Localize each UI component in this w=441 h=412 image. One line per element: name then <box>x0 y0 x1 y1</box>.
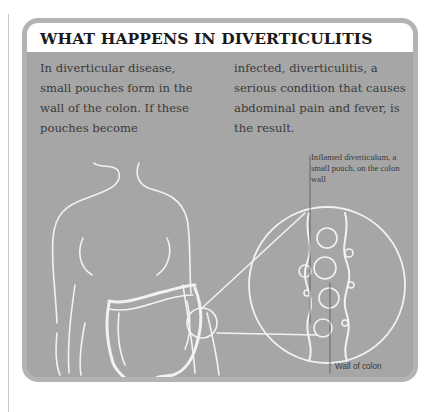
info-panel: WHAT HAPPENS IN DIVERTICULITIS In divert… <box>22 18 418 382</box>
callout-wall-of-colon: Wall of colon <box>335 361 415 372</box>
margin-rule <box>8 14 9 412</box>
panel-title: WHAT HAPPENS IN DIVERTICULITIS <box>40 29 372 48</box>
colon-illustration <box>27 52 413 382</box>
panel-header: WHAT HAPPENS IN DIVERTICULITIS <box>27 23 413 52</box>
callout-inflamed-diverticulum: Inflamed diverticulum, a small pouch, on… <box>311 152 411 185</box>
